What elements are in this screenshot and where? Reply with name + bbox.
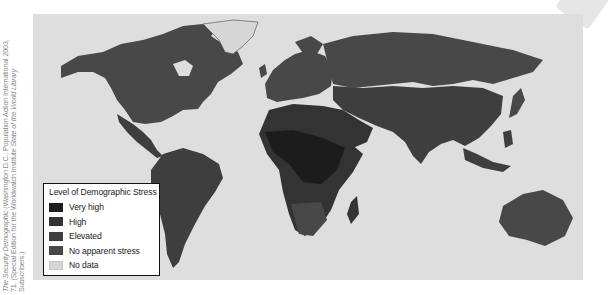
legend-item-high: High [49, 215, 155, 230]
legend-swatch [49, 232, 63, 241]
credit-line3: Subscribers.) [18, 22, 26, 292]
map-legend: Level of Demographic Stress Very high Hi… [43, 183, 160, 276]
region-japan [509, 88, 525, 118]
region-south-america [151, 148, 223, 268]
region-philippines [503, 130, 513, 148]
legend-label: High [69, 217, 86, 227]
legend-swatch [49, 246, 63, 255]
region-madagascar [347, 196, 359, 224]
region-australia [499, 190, 573, 246]
legend-label: No apparent stress [69, 246, 140, 256]
legend-swatch [49, 217, 63, 226]
region-uk [259, 64, 267, 78]
legend-label: No data [69, 260, 98, 270]
credit-library: State of the World Library [9, 69, 18, 147]
region-southeast-asia [463, 148, 511, 172]
legend-swatch [49, 203, 63, 212]
world-map: Level of Demographic Stress Very high Hi… [33, 14, 583, 280]
region-north-america [61, 24, 243, 124]
legend-item-very-high: Very high [49, 200, 155, 215]
legend-swatch [49, 261, 63, 270]
source-credit: The Security Demographic (Washington D.C… [2, 22, 27, 292]
legend-label: Very high [69, 202, 104, 212]
legend-item-elevated: Elevated [49, 229, 155, 244]
legend-item-no-apparent-stress: No apparent stress [49, 244, 155, 259]
region-russia [323, 32, 543, 88]
region-southern-africa [291, 202, 327, 236]
region-europe [265, 50, 333, 102]
legend-label: Elevated [69, 231, 102, 241]
legend-title: Level of Demographic Stress [49, 187, 155, 197]
legend-item-no-data: No data [49, 258, 155, 273]
